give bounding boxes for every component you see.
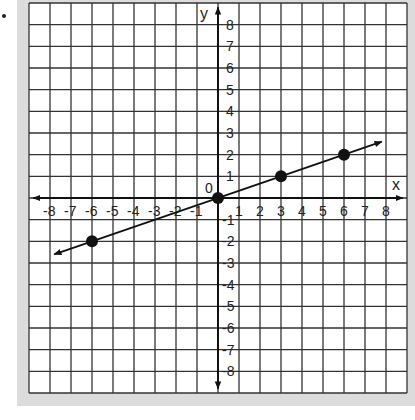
x-tick-label: -5 xyxy=(106,203,119,219)
data-point xyxy=(338,149,350,161)
coordinate-plane: -8-7-6-5-4-3-2-11234567887654321-1-2-3-4… xyxy=(0,0,415,420)
x-tick-label: 2 xyxy=(256,203,264,219)
x-tick-label: 8 xyxy=(382,203,390,219)
y-tick-label: 6 xyxy=(226,60,234,76)
origin-label: 0 xyxy=(205,180,213,196)
x-tick-label: -8 xyxy=(43,203,56,219)
x-axis-label: x xyxy=(392,176,400,193)
y-tick-label: 1 xyxy=(226,168,234,184)
y-tick-label: -5 xyxy=(222,298,235,314)
y-tick-label: -1 xyxy=(222,212,235,228)
y-tick-label: -8 xyxy=(222,363,235,379)
y-tick-label: 4 xyxy=(226,103,234,119)
data-point xyxy=(275,170,287,182)
y-tick-label: 2 xyxy=(226,147,234,163)
x-tick-label: -7 xyxy=(64,203,77,219)
y-tick-label: -3 xyxy=(222,255,235,271)
y-tick-label: 5 xyxy=(226,82,234,98)
y-tick-label: 3 xyxy=(226,125,234,141)
y-tick-label: -7 xyxy=(222,342,235,358)
y-tick-label: -4 xyxy=(222,277,235,293)
x-tick-label: -3 xyxy=(148,203,161,219)
data-point xyxy=(212,192,224,204)
x-tick-label: 6 xyxy=(340,203,348,219)
x-tick-label: -4 xyxy=(127,203,140,219)
x-tick-label: 1 xyxy=(235,203,243,219)
x-tick-label: -6 xyxy=(85,203,98,219)
y-axis-label: y xyxy=(200,5,208,22)
y-tick-label: 8 xyxy=(226,17,234,33)
x-tick-label: 3 xyxy=(277,203,285,219)
x-tick-label: 7 xyxy=(361,203,369,219)
data-point xyxy=(86,235,98,247)
y-tick-label: -2 xyxy=(222,233,235,249)
x-tick-label: 5 xyxy=(319,203,327,219)
x-tick-label: 4 xyxy=(298,203,306,219)
y-tick-label: -6 xyxy=(222,320,235,336)
y-tick-label: 7 xyxy=(226,38,234,54)
